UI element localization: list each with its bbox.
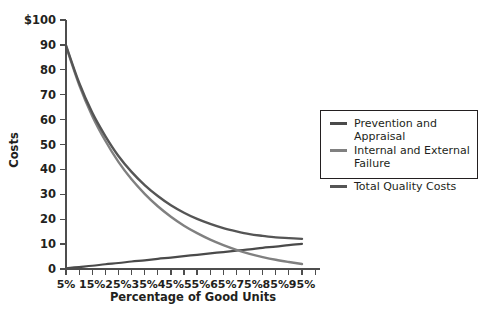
x-axis-ticks: 5%15%25%35%45%55%65%75%85%95% [57, 269, 316, 291]
x-tick-label: 95% [289, 278, 315, 291]
y-axis-title: Costs [7, 132, 21, 168]
y-tick-label: 70 [40, 88, 56, 102]
y-tick-label: 40 [40, 162, 56, 176]
legend-item-total-quality-costs: Total Quality Costs [330, 180, 477, 193]
quality-costs-chart: 0102030405060708090$100 5%15%25%35%45%55… [0, 0, 502, 318]
legend-swatch-icon-failure [330, 149, 347, 152]
chart-legend: Prevention and Appraisal Internal and Ex… [320, 110, 478, 179]
y-tick-label: 50 [40, 138, 56, 152]
x-tick-label: 5% [57, 278, 76, 291]
chart-series-group [66, 45, 302, 268]
series-line-internal-and-external-failure [66, 46, 302, 264]
series-line-total-quality-costs [66, 45, 302, 238]
y-tick-label: 20 [40, 212, 56, 226]
y-tick-label: 90 [40, 38, 56, 52]
series-line-prevention-and-appraisal [66, 244, 302, 268]
y-tick-label: $100 [24, 13, 56, 27]
legend-label-total: Total Quality Costs [354, 180, 456, 193]
y-tick-label: 10 [40, 237, 56, 251]
y-tick-label: 0 [48, 262, 56, 276]
y-tick-label: 80 [40, 63, 56, 77]
x-tick-label: 15% [79, 278, 105, 291]
legend-swatch-icon-total [330, 185, 347, 188]
x-axis-title: Percentage of Good Units [110, 290, 276, 304]
y-tick-label: 30 [40, 187, 56, 201]
legend-item-internal-and-external-failure: Internal and External Failure [330, 144, 477, 170]
y-axis-ticks: 0102030405060708090$100 [24, 13, 66, 276]
legend-label-prevention: Prevention and Appraisal [354, 117, 477, 143]
legend-swatch-icon-prevention [330, 122, 347, 125]
y-tick-label: 60 [40, 113, 56, 127]
legend-label-failure: Internal and External Failure [354, 144, 470, 170]
legend-item-prevention-and-appraisal: Prevention and Appraisal [330, 117, 477, 143]
